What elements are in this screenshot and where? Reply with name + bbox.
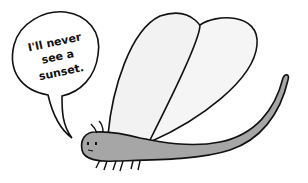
wings bbox=[108, 13, 257, 142]
right-eye bbox=[95, 142, 97, 145]
comic-panel: I'll never see a sunset. bbox=[0, 0, 308, 183]
left-eye bbox=[87, 142, 89, 145]
speech-bubble: I'll never see a sunset. bbox=[12, 12, 98, 138]
comic-illustration: I'll never see a sunset. bbox=[0, 0, 308, 183]
